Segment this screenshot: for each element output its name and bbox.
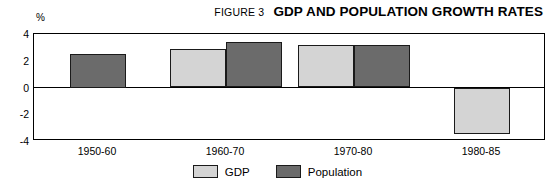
y-tick-label: -2 [20,108,29,120]
y-tick-label: -4 [20,135,29,147]
legend-item-gdp[interactable]: GDP [193,165,250,178]
bar-gdp-1960-70 [170,49,226,88]
bars-layer [34,34,544,139]
x-tick-label: 1980-85 [462,145,501,157]
plot-area: 420-2-4 [33,33,545,140]
figure-header: FIGURE 3 GDP AND POPULATION GROWTH RATES [0,4,545,22]
y-axis-unit-label: % [36,12,45,23]
bar-gdp-1980-85 [454,88,510,135]
x-tick-label: 1960-70 [206,145,245,157]
chart-legend: GDPPopulation [0,165,555,178]
y-tick-label: 0 [23,82,29,94]
bar-population-1970-80 [354,45,410,88]
x-tick-labels: 1950-601960-701970-801980-85 [33,145,545,161]
page-title: GDP AND POPULATION GROWTH RATES [273,4,543,19]
legend-swatch-population [276,165,301,178]
legend-label: GDP [225,166,250,178]
x-tick-label: 1970-80 [334,145,373,157]
bar-population-1960-70 [226,42,282,87]
y-tick-label: 4 [23,28,29,40]
figure-container: FIGURE 3 GDP AND POPULATION GROWTH RATES… [0,0,555,190]
legend-item-population[interactable]: Population [276,165,362,178]
x-tick-label: 1950-60 [78,145,117,157]
bar-population-1950-60 [70,54,126,87]
legend-label: Population [308,166,362,178]
y-tick-label: 2 [23,55,29,67]
figure-number: FIGURE 3 [214,6,264,18]
legend-swatch-gdp [193,165,218,178]
bar-gdp-1970-80 [298,45,354,88]
